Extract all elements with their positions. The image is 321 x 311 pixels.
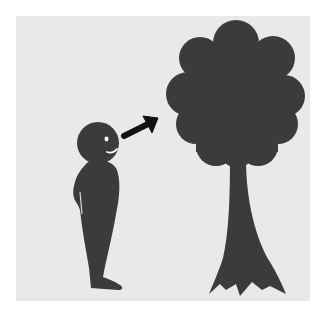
person-silhouette xyxy=(73,122,122,290)
person-head xyxy=(77,122,119,164)
arrow-up-right-icon xyxy=(124,116,158,136)
tree-silhouette xyxy=(166,20,305,296)
person-body xyxy=(73,161,122,290)
tree-trunk xyxy=(209,160,286,296)
tree-canopy xyxy=(166,20,305,168)
person-eye xyxy=(105,137,109,142)
illustration-canvas xyxy=(0,0,321,311)
